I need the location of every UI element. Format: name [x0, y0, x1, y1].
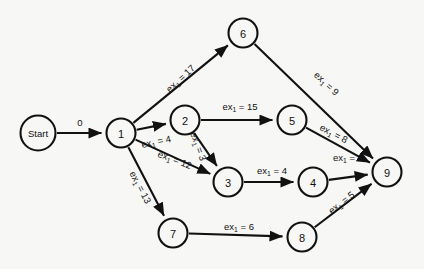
- node-label-n8: 8: [299, 232, 305, 244]
- node-label-n7: 7: [170, 228, 176, 240]
- node-n8[interactable]: 8: [288, 223, 317, 252]
- node-n2[interactable]: 2: [171, 106, 200, 135]
- node-label-n2: 2: [182, 115, 188, 127]
- edge-label-start-to-n1: 0: [77, 117, 82, 128]
- edge-label-n2-to-n5: ex1 = 15: [222, 101, 257, 114]
- node-n4[interactable]: 4: [299, 168, 328, 197]
- edge-label-n4-to-n9: ex1 = 2: [333, 152, 363, 165]
- diagram-canvas: Start123456789 0ex1 = 17ex1 = 4ex1 = 12e…: [0, 0, 424, 269]
- node-n7[interactable]: 7: [159, 219, 188, 248]
- node-label-n5: 5: [289, 115, 295, 127]
- node-n3[interactable]: 3: [214, 168, 243, 197]
- edge-label-n1-to-n2: ex1 = 4: [140, 133, 172, 152]
- node-label-n9: 9: [384, 167, 390, 179]
- node-label-n3: 3: [225, 177, 231, 189]
- node-n9[interactable]: 9: [373, 158, 402, 187]
- edge-label-n8-to-n9: ex1 = 5: [326, 188, 358, 217]
- edge-label-n1-to-n3: ex1 = 12: [156, 148, 194, 173]
- edge-label-n7-to-n8: ex1 = 6: [224, 221, 254, 234]
- network-diagram: Start123456789 0ex1 = 17ex1 = 4ex1 = 12e…: [0, 0, 424, 269]
- node-label-n6: 6: [240, 28, 246, 40]
- node-label-n4: 4: [310, 177, 316, 189]
- edge-label-n1-to-n6: ex1 = 17: [163, 62, 198, 96]
- node-start[interactable]: Start: [21, 116, 56, 151]
- edge-label-n2-to-n3: ex1 = 3: [187, 130, 209, 163]
- node-label-n1: 1: [118, 128, 124, 140]
- edge-n1-to-n2: [137, 124, 166, 130]
- node-n5[interactable]: 5: [278, 106, 307, 135]
- node-label-start: Start: [28, 128, 48, 139]
- edge-n4-to-n9: [329, 175, 368, 180]
- edge-n7-to-n8: [189, 233, 283, 236]
- node-n6[interactable]: 6: [229, 19, 258, 48]
- edge-n6-to-n9: [255, 44, 373, 158]
- edge-label-n3-to-n4: ex1 = 4: [257, 165, 287, 178]
- edge-label-n6-to-n9: ex1 = 9: [311, 69, 342, 99]
- node-n1[interactable]: 1: [107, 119, 136, 148]
